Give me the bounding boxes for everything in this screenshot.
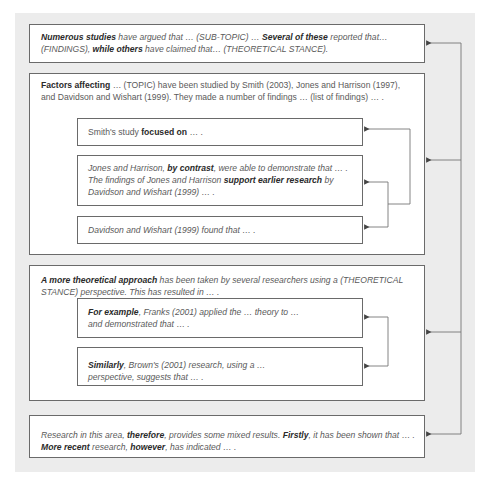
emphasis-phrase: For example: [88, 307, 139, 317]
emphasis-phrase: Firstly: [283, 430, 309, 440]
text-segment: research,: [90, 442, 131, 452]
emphasis-phrase: Factors affecting: [41, 80, 110, 90]
brown-box: Similarly, Brown's (2001) research, usin…: [77, 347, 363, 386]
text-segment: , provides some mixed results.: [164, 430, 282, 440]
emphasis-phrase: focused on: [141, 127, 187, 137]
smith-box: Smith's study focused on … .: [77, 118, 363, 146]
text-segment: … .: [187, 127, 203, 137]
emphasis-phrase: support earlier research: [224, 175, 322, 185]
davidson-wishart-box: Davidson and Wishart (1999) found that ……: [77, 216, 363, 244]
theoretical-intro-text: A more theoretical approach has been tak…: [41, 274, 421, 298]
text-segment: Davidson and Wishart (1999) found that ……: [88, 225, 256, 235]
text-segment: have argued that … (SUB-TOPIC) …: [116, 32, 262, 42]
text-segment: have claimed that… (THEORETICAL STANCE).: [143, 44, 328, 54]
text-segment: Smith's study: [88, 127, 141, 137]
franks-text: For example, Franks (2001) applied the ……: [88, 306, 313, 330]
factors-intro-text: Factors affecting … (TOPIC) have been st…: [41, 79, 413, 103]
conclusion-text: Research in this area, therefore, provid…: [41, 429, 421, 453]
intro-box: Numerous studies have argued that … (SUB…: [29, 24, 425, 63]
brown-text: Similarly, Brown's (2001) research, usin…: [88, 359, 313, 383]
smith-text: Smith's study focused on … .: [88, 126, 358, 138]
emphasis-phrase: More recent: [41, 442, 90, 452]
emphasis-phrase: however: [130, 442, 165, 452]
emphasis-phrase: by contrast: [167, 163, 213, 173]
text-segment: Jones and Harrison,: [88, 163, 167, 173]
jones-harrison-box: Jones and Harrison, by contrast, were ab…: [77, 155, 363, 206]
emphasis-phrase: Several of these: [262, 32, 328, 42]
davidson-wishart-text: Davidson and Wishart (1999) found that ……: [88, 224, 358, 236]
intro-text: Numerous studies have argued that … (SUB…: [41, 31, 421, 55]
franks-box: For example, Franks (2001) applied the ……: [77, 298, 363, 338]
text-segment: , it has been shown that … .: [308, 430, 415, 440]
text-segment: Research in this area,: [41, 430, 127, 440]
emphasis-phrase: while others: [93, 44, 143, 54]
emphasis-phrase: therefore: [127, 430, 164, 440]
jones-harrison-text: Jones and Harrison, by contrast, were ab…: [88, 162, 360, 199]
emphasis-phrase: Numerous studies: [41, 32, 116, 42]
conclusion-box: Research in this area, therefore, provid…: [29, 415, 425, 458]
emphasis-phrase: A more theoretical approach: [41, 275, 157, 285]
emphasis-phrase: Similarly: [88, 360, 124, 370]
text-segment: , has indicated … .: [165, 442, 236, 452]
